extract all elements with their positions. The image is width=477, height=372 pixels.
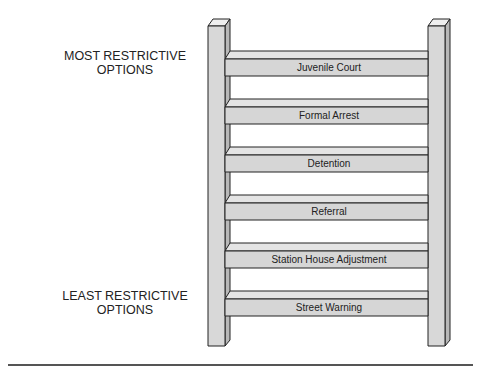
right-post-side [445,19,450,346]
ladder-diagram [0,0,477,372]
right-post-front [428,26,445,346]
left-post-front [208,26,225,346]
rung-label-station-house-adjustment: Station House Adjustment [230,254,428,265]
rung-label-street-warning: Street Warning [230,302,428,313]
rung-label-referral: Referral [230,206,428,217]
footer-divider [8,364,473,366]
rung-label-formal-arrest: Formal Arrest [230,110,428,121]
rung-label-juvenile-court: Juvenile Court [230,62,428,73]
rung-label-detention: Detention [230,158,428,169]
